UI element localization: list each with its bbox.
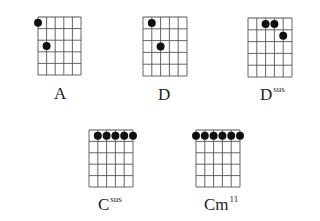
finger-dot (148, 19, 156, 27)
finger-dot (111, 132, 119, 140)
fretboard-grid (89, 130, 133, 187)
chord-root: Cm (204, 195, 229, 214)
finger-dot (236, 132, 244, 140)
chord-name-label: A (54, 85, 66, 102)
finger-dot (218, 132, 226, 140)
finger-dot (192, 132, 200, 140)
fretboard-grid (143, 17, 187, 76)
chord-root: D (260, 85, 272, 104)
fretboard-grid (38, 17, 81, 75)
finger-dot (262, 20, 270, 28)
finger-dot (279, 32, 287, 40)
chord-root: C (98, 195, 109, 214)
chord-name-label: Dsus (260, 86, 285, 103)
finger-dot (34, 19, 42, 27)
finger-dot (210, 132, 218, 140)
finger-dot (157, 43, 165, 51)
finger-dot (129, 132, 137, 140)
chord-suffix: 11 (230, 194, 239, 204)
fretboard-grid (196, 130, 240, 187)
chord-root: D (158, 85, 170, 104)
finger-dot (94, 132, 102, 140)
chord-name-label: D (158, 86, 170, 103)
finger-dot (201, 132, 209, 140)
chord-suffix: sus (273, 84, 285, 94)
chord-name-label: Cm11 (204, 196, 238, 213)
fretboard-grid (248, 18, 292, 77)
finger-dot (103, 132, 111, 140)
chord-name-label: Csus (98, 196, 122, 213)
chord-suffix: sus (110, 194, 122, 204)
finger-dot (43, 42, 51, 50)
finger-dot (227, 132, 235, 140)
finger-dot (270, 20, 278, 28)
finger-dot (120, 132, 128, 140)
chord-root: A (54, 84, 66, 103)
